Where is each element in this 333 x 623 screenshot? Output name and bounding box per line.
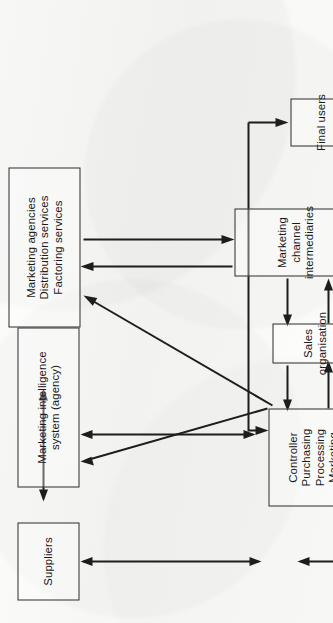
node-final-users[interactable]: Final users	[290, 98, 333, 146]
edge-controller-management-services	[297, 557, 333, 566]
node-controller-line-3: Marketing	[326, 432, 333, 483]
node-controller-line-2: Processing	[313, 428, 326, 485]
node-controller[interactable]: Controller Purchasing Processing Marketi…	[268, 408, 333, 506]
node-marketing-intelligence-system[interactable]: Marketing intelligence system (agency)	[17, 327, 79, 487]
node-marketing-agencies[interactable]: Marketing agencies Distribution services…	[8, 167, 80, 327]
node-final-users-line-0: Final users	[314, 94, 327, 151]
node-marketing-agencies-line-2: Factoring services	[51, 200, 64, 294]
node-marketing-channel-intermediaries[interactable]: Marketing channel intermediaries	[234, 208, 333, 276]
edge-controller-marketing-agencies-diagonal	[83, 295, 272, 405]
edge-feedback-bus-to-controller	[248, 122, 268, 435]
edge-suppliers-controller	[80, 557, 261, 566]
node-suppliers[interactable]: Suppliers	[17, 522, 79, 600]
edge-intermediaries-marketing-agencies	[80, 262, 232, 271]
node-marketing-channel-intermediaries-line-1: channel	[289, 222, 302, 263]
node-controller-line-1: Purchasing	[299, 428, 312, 486]
node-marketing-agencies-line-1: Distribution services	[37, 195, 50, 299]
node-marketing-intelligence-system-line-1: system (agency)	[48, 364, 61, 449]
node-marketing-channel-intermediaries-line-2: intermediaries	[302, 206, 315, 279]
node-marketing-agencies-line-0: Marketing agencies	[24, 197, 37, 298]
edge-controller-marketing-intelligence-system-diagonal	[80, 408, 267, 465]
node-sales-organisation[interactable]: Sales organisation	[272, 323, 333, 363]
edge-marketing-agencies-intermediaries	[83, 235, 234, 244]
node-controller-line-0: Controller	[286, 432, 299, 482]
node-sales-organisation-line-1: organisation	[315, 311, 328, 374]
node-marketing-intelligence-system-line-0: Marketing intelligence	[35, 351, 48, 463]
diagram-stage: Suppliers Marketing intelligence system …	[0, 0, 333, 623]
edge-sales-organisation-controller	[283, 365, 292, 411]
node-sales-organisation-line-0: Sales	[301, 329, 314, 358]
scanned-figure-page: Suppliers Marketing intelligence system …	[0, 0, 333, 623]
node-suppliers-line-0: Suppliers	[41, 537, 54, 585]
edge-feedback-bus-to-final-users	[248, 118, 288, 127]
node-marketing-channel-intermediaries-line-0: Marketing	[275, 217, 288, 268]
edge-intermediaries-sales-organisation	[283, 278, 292, 326]
